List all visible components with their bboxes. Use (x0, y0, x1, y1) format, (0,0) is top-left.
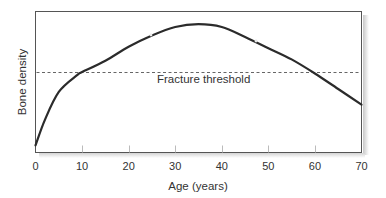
x-tick-label: 20 (123, 160, 135, 172)
y-axis-title: Bone density (16, 49, 28, 116)
frame-shadow-right (363, 15, 369, 155)
curve-gap-mark (255, 40, 258, 43)
x-tick-label: 30 (169, 160, 181, 172)
x-tick-label: 0 (32, 160, 38, 172)
x-tick-label: 40 (216, 160, 228, 172)
x-axis-title: Age (years) (168, 180, 228, 192)
x-tick-label: 50 (262, 160, 274, 172)
x-axis-tick-labels: 010203040506070 (32, 160, 367, 172)
bone-density-chart: 010203040506070 Fracture threshold Age (… (0, 0, 386, 198)
frame-shadow-bottom (39, 153, 365, 158)
x-tick-label: 10 (76, 160, 88, 172)
x-tick-label: 60 (309, 160, 321, 172)
curve-gap-mark (150, 34, 153, 37)
fracture-threshold-label: Fracture threshold (157, 73, 250, 85)
x-tick-label: 70 (355, 160, 367, 172)
